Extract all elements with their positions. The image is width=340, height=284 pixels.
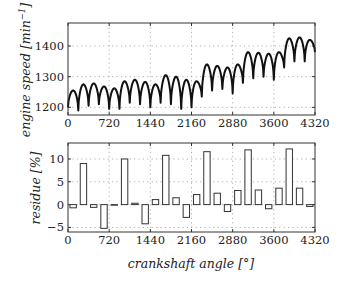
residue-bar: [266, 205, 272, 209]
x-tick-label: 4320: [300, 116, 329, 130]
x-tick-label: 2880: [218, 116, 247, 130]
y-tick-label: 1400: [35, 39, 64, 53]
residue-bar: [214, 193, 220, 204]
residue-bar: [245, 150, 251, 205]
residue-bar-plot: 072014402160288036004320−50510: [47, 143, 330, 247]
residue-bar: [132, 203, 138, 204]
y-tick-label: 10: [49, 152, 64, 166]
residue-bar: [142, 205, 148, 224]
residue-bar: [163, 155, 169, 204]
x-tick-label: 1440: [136, 233, 165, 247]
residue-bar: [183, 205, 189, 218]
residue-bar: [307, 205, 313, 207]
engine-speed-curve: [68, 37, 315, 110]
residue-bar: [286, 149, 292, 205]
x-tick-label: 1440: [136, 116, 165, 130]
residue-bar: [80, 164, 86, 205]
residue-bar: [276, 188, 282, 204]
x-tick-label: 0: [64, 116, 71, 130]
y-tick-label: 1300: [35, 70, 64, 84]
y-tick-label: 1200: [35, 100, 64, 114]
residue-bar: [152, 200, 158, 205]
residue-bar: [193, 195, 199, 205]
residue-bar: [235, 190, 241, 204]
bottom-y-axis-label: residue [%]: [28, 151, 43, 224]
residue-bar: [101, 205, 107, 229]
x-tick-label: 2160: [177, 116, 206, 130]
exponent: −1: [17, 8, 27, 21]
y-tick-label: −5: [47, 220, 64, 234]
top-y-axis-label: engine speed [min−1]: [17, 3, 33, 137]
x-tick-label: 2880: [218, 233, 247, 247]
residue-bar: [111, 205, 117, 206]
engine-speed-plot: 072014402160288036004320120013001400: [35, 23, 330, 130]
x-tick-label: 720: [98, 116, 120, 130]
residue-bar: [204, 152, 210, 205]
residue-bar: [255, 190, 261, 205]
residue-bar: [173, 198, 179, 205]
x-axis-label: crankshaft angle [°]: [128, 256, 255, 271]
x-tick-label: 2160: [177, 233, 206, 247]
x-tick-label: 3600: [259, 233, 288, 247]
residue-bar: [91, 205, 97, 208]
residue-bar: [70, 205, 76, 208]
x-tick-label: 4320: [300, 233, 329, 247]
residue-bar: [224, 205, 230, 212]
residue-bar: [121, 159, 127, 205]
residue-bar: [296, 188, 302, 204]
chart-figure: 072014402160288036004320120013001400 072…: [0, 0, 340, 284]
y-tick-label: 5: [57, 175, 64, 189]
x-tick-label: 3600: [259, 116, 288, 130]
x-tick-label: 720: [98, 233, 120, 247]
x-tick-label: 0: [64, 233, 71, 247]
y-tick-label: 0: [57, 198, 64, 212]
